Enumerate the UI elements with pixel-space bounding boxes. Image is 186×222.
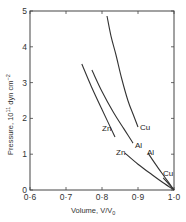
- axis-ticks: [30, 11, 174, 190]
- y-tick-label: 5: [22, 6, 27, 16]
- label-al-upper: Al: [135, 141, 142, 150]
- y-tick-label: 2: [22, 113, 27, 123]
- y-tick-label: 0: [22, 185, 27, 195]
- y-tick-label: 1: [22, 149, 27, 159]
- x-tick-label: 1·0: [168, 192, 181, 202]
- label-cu-lower: Cu: [163, 169, 173, 178]
- label-al-lower: Al: [147, 148, 154, 157]
- curve-cu-upper: [107, 16, 138, 127]
- pressure-volume-chart: 0·60·70·80·91·0012345 Cu Al Zn Zn Al Cu …: [0, 0, 186, 222]
- label-cu-upper: Cu: [140, 123, 150, 132]
- x-axis-label: Volume, V/V0: [71, 206, 115, 216]
- y-tick-label: 4: [22, 42, 27, 52]
- curves: [82, 16, 174, 190]
- tick-labels: 0·60·70·80·91·0012345: [22, 6, 180, 202]
- label-zn-lower: Zn: [116, 148, 125, 157]
- plot-frame: [30, 11, 174, 190]
- y-axis-label: Pressure, 1011 dyn cm−2: [5, 74, 15, 155]
- x-tick-label: 0·9: [132, 192, 145, 202]
- x-tick-label: 0·8: [96, 192, 109, 202]
- y-tick-label: 3: [22, 78, 27, 88]
- x-tick-label: 0·7: [60, 192, 73, 202]
- label-zn-upper: Zn: [102, 124, 111, 133]
